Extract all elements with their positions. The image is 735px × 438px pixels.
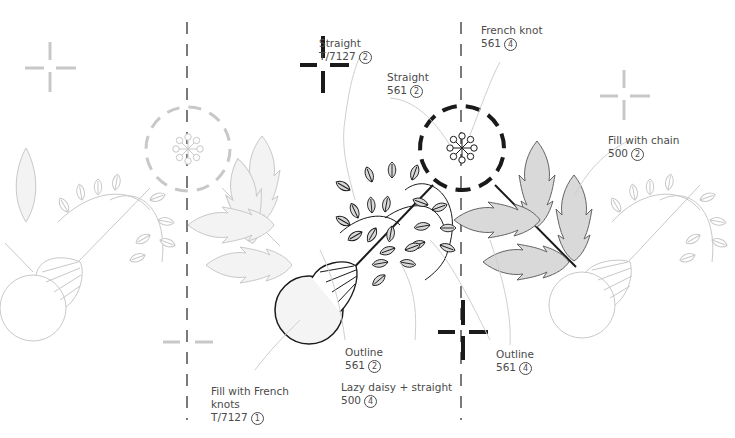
label-straight-t7127: Straight T/71272 (319, 37, 372, 64)
thread-code: 561 (481, 37, 501, 49)
stitch-name: Outline (345, 346, 383, 358)
thread-code: 500 (341, 394, 361, 406)
thread-code: 561 (496, 361, 516, 373)
thread-code: T/7127 (211, 411, 248, 423)
label-outline-561-4: Outline 5614 (496, 348, 534, 375)
stitch-name-line1: Fill with French (211, 385, 289, 398)
thread-code: 561 (387, 84, 407, 96)
label-outline-561-2: Outline 5612 (345, 346, 383, 373)
stitch-name: French knot (481, 24, 543, 36)
label-lazy-daisy-500: Lazy daisy + straight 5004 (341, 381, 452, 408)
label-straight-561: Straight 5612 (387, 71, 429, 98)
stitch-name: Fill with chain (608, 134, 679, 146)
strands-count: 1 (251, 412, 264, 425)
main-motif (275, 36, 592, 360)
strands-count: 4 (519, 362, 532, 375)
strands-count: 2 (359, 51, 372, 64)
thread-code: 500 (608, 147, 628, 159)
strands-count: 2 (368, 360, 381, 373)
strands-count: 2 (631, 148, 644, 161)
label-fill-french-knots: Fill with French knots T/71271 (211, 385, 289, 425)
stitch-name: Straight (319, 37, 361, 49)
strands-count: 4 (364, 395, 377, 408)
stitch-name-line2: knots (211, 398, 289, 411)
thread-code: 561 (345, 359, 365, 371)
stitch-name: Lazy daisy + straight (341, 381, 452, 393)
label-fill-chain-500: Fill with chain 5002 (608, 134, 679, 161)
strands-count: 2 (410, 85, 423, 98)
thread-code: T/7127 (319, 50, 356, 62)
faded-left-motif (0, 42, 292, 342)
strands-count: 4 (504, 38, 517, 51)
flower-center (447, 133, 477, 163)
stitch-name: Straight (387, 71, 429, 83)
label-french-knot-561: French knot 5614 (481, 24, 543, 51)
stitch-name: Outline (496, 348, 534, 360)
